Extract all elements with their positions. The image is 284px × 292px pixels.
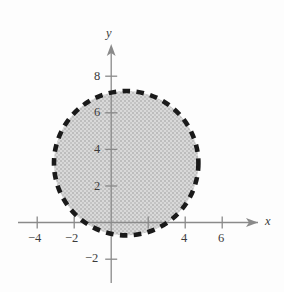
y-tick-label-2: 2 <box>94 180 100 193</box>
coordinate-plane <box>0 0 284 292</box>
x-tick-label-4: 4 <box>181 232 187 245</box>
y-tick-label-6: 6 <box>94 106 100 119</box>
y-tick-label-4: 4 <box>94 143 100 156</box>
x-axis-label: x <box>265 215 271 228</box>
x-tick-label-minus2: −2 <box>65 232 78 245</box>
y-tick-label-8: 8 <box>94 70 100 83</box>
y-axis-label: y <box>106 27 112 40</box>
x-tick-label-6: 6 <box>218 232 224 245</box>
y-tick-label-minus2: −2 <box>85 252 98 265</box>
graph-figure: −4 −2 4 6 8 6 4 2 −2 x y <box>0 0 284 292</box>
x-tick-label-minus4: −4 <box>28 232 41 245</box>
